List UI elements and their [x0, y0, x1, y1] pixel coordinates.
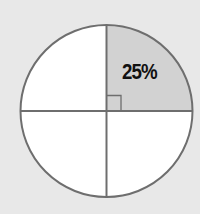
pie-chart	[0, 0, 200, 214]
percent-label: 25%	[122, 59, 157, 85]
